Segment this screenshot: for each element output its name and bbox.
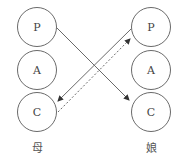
- mother-adult-circle: A: [17, 50, 57, 90]
- mother-parent-circle: P: [17, 7, 57, 47]
- dotted-arrow-mother-c-to-daughter-p: [58, 39, 130, 112]
- daughter-label: 娘: [131, 139, 171, 155]
- arrow-mother-p-to-daughter-c: [57, 28, 129, 100]
- daughter-child-circle: C: [131, 92, 171, 132]
- daughter-parent-circle: P: [131, 7, 171, 47]
- daughter-adult-circle: A: [131, 50, 171, 90]
- mother-label: 母: [17, 139, 57, 155]
- mother-child-circle: C: [17, 92, 57, 132]
